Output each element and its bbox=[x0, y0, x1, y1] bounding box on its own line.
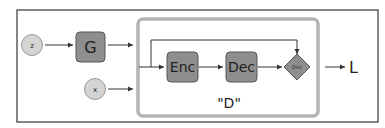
node-x: x bbox=[85, 79, 106, 100]
output-l-label: L bbox=[349, 58, 358, 77]
node-encoder-label: Enc bbox=[170, 59, 195, 75]
node-distance-label: Dist bbox=[292, 64, 302, 70]
node-z-label: z bbox=[30, 42, 34, 50]
node-decoder: Dec bbox=[226, 52, 257, 82]
node-generator: G bbox=[76, 32, 105, 62]
discriminator-group-label: "D" bbox=[217, 95, 241, 111]
diagram-canvas: z G x Enc Dec Dist L "D" bbox=[0, 0, 385, 128]
node-decoder-label: Dec bbox=[228, 59, 255, 75]
node-generator-label: G bbox=[84, 38, 96, 57]
node-z: z bbox=[22, 35, 43, 56]
node-x-label: x bbox=[93, 86, 97, 94]
node-encoder: Enc bbox=[167, 52, 198, 82]
